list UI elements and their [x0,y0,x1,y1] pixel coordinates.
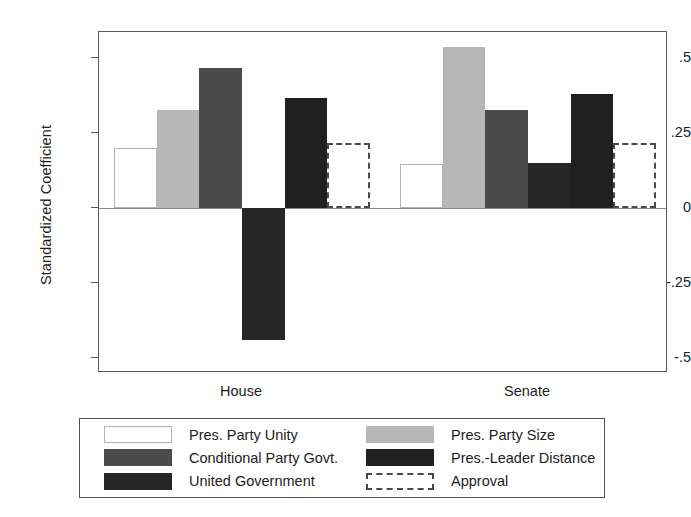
legend-swatch-icon [104,449,172,466]
legend-label: Pres. Party Size [451,427,555,443]
bar [242,208,285,340]
legend-label: United Government [189,473,315,489]
bar [485,110,528,208]
bar [285,98,328,208]
legend-label: Conditional Party Govt. [189,450,338,466]
x-axis-category-label: Senate [504,383,550,399]
bar [199,68,242,208]
bar [613,143,656,208]
legend-entry[interactable]: Pres. Party Size [342,426,604,443]
bar-chart-figure: Standardized Coefficient .5.250-.25-.5 H… [0,0,691,517]
y-axis-title: Standardized Coefficient [38,75,54,335]
legend-swatch-icon [104,473,172,490]
legend: Pres. Party UnityPres. Party SizeConditi… [79,418,605,498]
x-axis-category-label: House [220,383,262,399]
legend-entry[interactable]: United Government [80,473,342,490]
legend-entry[interactable]: Conditional Party Govt. [80,449,342,466]
plot-area [98,31,667,372]
bar [571,94,614,208]
legend-label: Pres. Party Unity [189,427,298,443]
plot-inner [99,32,666,371]
zero-baseline [99,208,666,209]
legend-entry[interactable]: Pres.-Leader Distance [342,449,604,466]
legend-grid: Pres. Party UnityPres. Party SizeConditi… [80,419,604,497]
legend-label: Pres.-Leader Distance [451,450,595,466]
bar [157,110,200,208]
bar [443,47,486,208]
bar [400,164,443,208]
legend-entry[interactable]: Approval [342,473,604,490]
legend-entry[interactable]: Pres. Party Unity [80,426,342,443]
legend-swatch-icon [366,426,434,443]
legend-swatch-icon [104,426,172,443]
legend-swatch-icon [366,473,434,490]
bar [114,148,157,208]
bar [528,163,571,208]
bar [327,143,370,208]
legend-swatch-icon [366,449,434,466]
legend-label: Approval [451,473,508,489]
